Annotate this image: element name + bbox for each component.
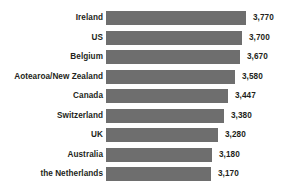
bar-track: 3,447 [106,89,287,103]
bar-row: Canada 3,447 [0,89,287,103]
bar-track: 3,670 [106,50,287,64]
bar-value-label: 3,280 [225,128,246,142]
category-label: Canada [0,89,103,103]
category-label: Aotearoa/New Zealand [0,70,103,84]
category-label: Australia [0,148,103,162]
bar-fill [106,11,246,25]
bar-row: Belgium 3,670 [0,50,287,64]
category-label: Belgium [0,50,103,64]
bar-row: Australia 3,180 [0,148,287,162]
bar-track: 3,280 [106,128,287,142]
bar-row: Switzerland 3,380 [0,109,287,123]
bar-track: 3,700 [106,31,287,45]
bar-value-label: 3,700 [249,31,270,45]
bar-fill [106,109,224,123]
category-label: Ireland [0,11,103,25]
bar-fill [106,70,235,84]
bar-fill [106,148,212,162]
bar-fill [106,128,218,142]
bar-row: UK 3,280 [0,128,287,142]
bar-row: US 3,700 [0,31,287,45]
bar-track: 3,380 [106,109,287,123]
bar-fill [106,50,240,64]
bar-row: Ireland 3,770 [0,11,287,25]
bar-value-label: 3,380 [231,109,252,123]
bar-row: Aotearoa/New Zealand 3,580 [0,70,287,84]
bar-value-label: 3,180 [219,148,240,162]
bar-track: 3,180 [106,148,287,162]
bar-track: 3,580 [106,70,287,84]
category-label: the Netherlands [0,167,103,181]
category-label: US [0,31,103,45]
bar-track: 3,770 [106,11,287,25]
bar-track: 3,170 [106,167,287,181]
bar-fill [106,31,242,45]
bar-fill [106,89,228,103]
bar-value-label: 3,170 [218,167,239,181]
bar-value-label: 3,770 [253,11,274,25]
bar-value-label: 3,670 [247,50,268,64]
bar-fill [106,167,211,181]
bar-value-label: 3,447 [235,89,256,103]
bar-row: the Netherlands 3,170 [0,167,287,181]
horizontal-bar-chart: Ireland 3,770 US 3,700 Belgium 3,670 Aot… [0,0,287,190]
bar-value-label: 3,580 [242,70,263,84]
category-label: Switzerland [0,109,103,123]
category-label: UK [0,128,103,142]
